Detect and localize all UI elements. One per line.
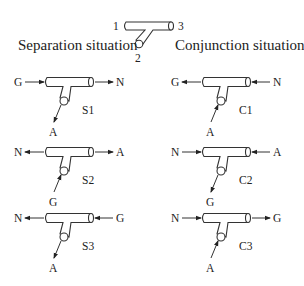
right-fluid-label: A: [116, 146, 125, 158]
tee-right-end: [246, 214, 251, 223]
branch-outflow-arrow: [211, 175, 218, 192]
port-label-3: 3: [178, 20, 184, 32]
branch-fluid-label: A: [206, 126, 215, 138]
conjunction-title: Conjunction situation: [175, 37, 304, 53]
branch-inflow-arrow: [211, 241, 218, 258]
branch-fluid-label: G: [49, 196, 57, 208]
tee-diagram-c1: GNAC1: [171, 76, 282, 138]
right-fluid-label: G: [116, 212, 124, 224]
tee-pipe: [46, 214, 92, 238]
tee-right-end: [89, 214, 94, 223]
branch-inflow-arrow: [211, 105, 218, 122]
diagram-id-label: S1: [82, 104, 94, 116]
right-fluid-label: N: [273, 76, 282, 88]
tee-diagram-c2: NAGC2: [171, 146, 282, 208]
tee-branch-end: [217, 167, 225, 175]
tee-diagram-s3: NGAS3: [14, 212, 124, 274]
port-label-2: 2: [135, 52, 141, 64]
tee-branch-end: [217, 233, 225, 241]
left-fluid-label: N: [171, 212, 180, 224]
branch-fluid-label: G: [206, 196, 214, 208]
tee-junction-diagram: 1 3 2 Separation situation Conjunction s…: [0, 0, 304, 286]
tee-pipe: [46, 148, 92, 172]
diagram-id-label: S3: [82, 240, 94, 252]
tee-diagram-c3: NGAC3: [171, 212, 281, 274]
tee-branch-end: [60, 167, 68, 175]
tee-right-end: [246, 78, 251, 87]
diagram-id-label: S2: [82, 174, 94, 186]
left-fluid-label: N: [171, 146, 180, 158]
tee-diagram-s1: GNAS1: [14, 76, 125, 138]
tee-branch-end: [60, 97, 68, 105]
right-fluid-label: A: [273, 146, 282, 158]
branch-fluid-label: A: [206, 262, 215, 274]
separation-title: Separation situation: [18, 37, 138, 53]
branch-outflow-arrow: [54, 241, 61, 258]
left-fluid-label: N: [14, 212, 23, 224]
tee-pipe: [203, 214, 249, 238]
diagram-id-label: C2: [239, 174, 253, 186]
left-fluid-label: N: [14, 146, 23, 158]
left-fluid-label: G: [171, 76, 179, 88]
left-fluid-label: G: [14, 76, 22, 88]
right-fluid-label: G: [273, 212, 281, 224]
tee-branch-end: [217, 97, 225, 105]
port-label-1: 1: [113, 20, 119, 32]
reference-tee-port3-end: [169, 22, 174, 30]
right-fluid-label: N: [116, 76, 125, 88]
tee-right-end: [89, 148, 94, 157]
diagram-id-label: C3: [239, 240, 253, 252]
branch-outflow-arrow: [54, 105, 61, 122]
tee-pipe: [203, 78, 249, 102]
tee-right-end: [246, 148, 251, 157]
tee-pipe: [46, 78, 92, 102]
diagram-id-label: C1: [239, 104, 253, 116]
tee-branch-end: [60, 233, 68, 241]
branch-inflow-arrow: [54, 175, 61, 192]
branch-fluid-label: A: [49, 126, 58, 138]
tee-diagram-s2: NAGS2: [14, 146, 125, 208]
tee-right-end: [89, 78, 94, 87]
branch-fluid-label: A: [49, 262, 58, 274]
tee-pipe: [203, 148, 249, 172]
